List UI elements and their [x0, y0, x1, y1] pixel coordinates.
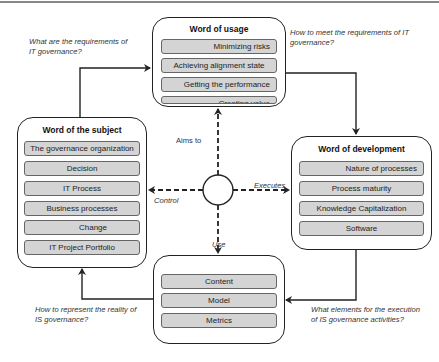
arrow-subject-to-usage [80, 68, 150, 117]
question-line: of IS governance activities? [311, 315, 420, 325]
subject-item: Decision [24, 161, 140, 176]
subject-item: Change [24, 220, 140, 235]
arrow-development-to-system [286, 249, 356, 300]
center-hub [203, 175, 233, 205]
box-title: Word of the subject [18, 125, 146, 135]
question-top-right: How to meet the requirements of IT gover… [290, 28, 409, 48]
question-bottom-left: How to represent the reality of IS gover… [35, 305, 136, 325]
subject-item: Business processes [24, 201, 140, 216]
box-word-of-development: Word of development Nature of processes … [291, 136, 432, 250]
question-bottom-right: What elements for the execution of IS go… [311, 305, 420, 325]
box-title: Word of usage [153, 24, 285, 34]
question-line: governance? [290, 38, 409, 48]
usage-item: Minimizing risks [161, 39, 277, 54]
question-line: What elements for the execution [311, 305, 420, 315]
development-item: Nature of processes [299, 161, 424, 176]
question-line: What are the requirements of [29, 37, 127, 47]
link-label-use: Use [212, 240, 226, 249]
arrow-usage-to-development [285, 73, 356, 134]
development-item: Software [299, 221, 424, 236]
usage-item: Achieving alignment state [161, 58, 277, 73]
subject-item: IT Project Portfolio [24, 240, 140, 255]
usage-item: Getting the performance [161, 77, 277, 92]
box-word-of-the-subject: Word of the subject The governance organ… [17, 117, 147, 268]
usage-item: Creating value [161, 96, 277, 104]
link-label-control: Control [154, 196, 178, 205]
link-label-aims-to: Aims to [176, 136, 201, 145]
development-item: Process maturity [299, 181, 424, 196]
question-line: IS governance? [35, 315, 136, 325]
question-line: IT governance? [29, 47, 127, 57]
question-line: How to meet the requirements of IT [290, 28, 409, 38]
system-item: Content [161, 274, 277, 289]
link-label-executes: Executes [254, 181, 285, 190]
box-title: Word of development [292, 144, 431, 154]
box-word-of-usage: Word of usage Minimizing risks Achieving… [152, 17, 286, 107]
subject-item: IT Process [24, 181, 140, 196]
arrow-system-to-subject [82, 269, 153, 299]
development-item: Knowledge Capitalization [299, 201, 424, 216]
subject-item: The governance organization [24, 141, 140, 156]
question-line: How to represent the reality of [35, 305, 136, 315]
system-item: Model [161, 293, 277, 308]
system-item: Metrics [161, 313, 277, 328]
box-system: Content Model Metrics [153, 255, 285, 344]
question-top-left: What are the requirements of IT governan… [29, 37, 127, 57]
